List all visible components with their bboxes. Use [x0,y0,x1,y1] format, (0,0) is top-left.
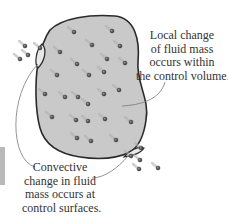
label-line: occurs within [136,56,228,70]
convective-change-label: Convective change in fluid mass occurs a… [22,161,98,215]
fluid-particle [89,139,93,143]
label-line: Local change [136,29,228,43]
label-line: Convective [22,161,98,175]
fluid-particle [102,70,106,74]
fluid-particle [75,62,79,66]
fluid-particle [90,43,94,47]
fluid-particle [26,53,30,57]
fluid-particle [118,44,122,48]
fluid-particle [75,136,79,140]
fluid-particle [156,166,160,170]
fluid-particle [38,46,42,50]
fluid-particle [137,167,141,171]
fluid-particle [63,95,67,99]
leader-line-convective-left [16,64,38,167]
label-line: change in fluid [22,175,98,189]
fluid-particle [23,44,27,48]
fluid-particle [76,95,80,99]
fluid-particle [114,138,118,142]
label-line: of fluid mass [136,43,228,57]
fluid-particle [102,92,106,96]
fluid-particle [87,73,91,77]
fluid-particle [74,118,78,122]
fluid-particle [55,73,59,77]
fluid-particle [43,92,47,96]
fluid-particle [86,119,90,123]
fluid-particle [129,154,133,158]
fluid-particle [129,120,133,124]
fluid-particle [50,115,54,119]
fluid-particle [105,57,109,61]
local-change-label: Local change of fluid mass occurs within… [136,29,228,83]
fluid-particle [86,102,90,106]
fluid-particle [123,61,127,65]
fluid-particle [139,146,143,150]
control-volume-region [36,16,147,159]
fluid-particle [58,50,62,54]
fluid-particle [72,30,76,34]
label-line: the control volume. [136,70,228,84]
fluid-particle [110,29,114,33]
fluid-particle [103,117,107,121]
fluid-particle [138,158,142,162]
label-line: control surfaces. [22,202,98,216]
fluid-particle [18,57,22,61]
label-line: mass occurs at [22,188,98,202]
fluid-particle [117,88,121,92]
